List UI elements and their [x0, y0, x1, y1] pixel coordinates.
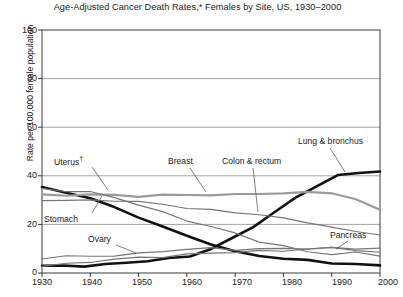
- dagger-footnote-marker: †: [79, 155, 83, 162]
- grid-lines: [42, 79, 380, 225]
- series-label-pancreas: Pancreas: [330, 230, 366, 240]
- data-series: [42, 171, 380, 266]
- series-label-breast: Breast: [168, 156, 193, 166]
- leader-line-lung: [330, 148, 345, 172]
- annotation-leader-lines: [92, 148, 348, 253]
- series-label-ovary: Ovary: [88, 234, 111, 244]
- leader-line-breast: [190, 168, 206, 192]
- series-label-uterus: Uterus†: [54, 155, 83, 167]
- leader-line-ovary: [116, 245, 136, 253]
- leader-line-uterus: [92, 167, 108, 190]
- series-label-stomach: Stomach: [44, 214, 78, 224]
- series-label-lung: Lung & bronchus: [298, 136, 363, 146]
- series-label-colon: Colon & rectum: [222, 156, 281, 166]
- leader-line-colon: [253, 168, 258, 212]
- series-line-breast: [42, 192, 380, 210]
- series-line-lung-bronchus: [42, 171, 380, 266]
